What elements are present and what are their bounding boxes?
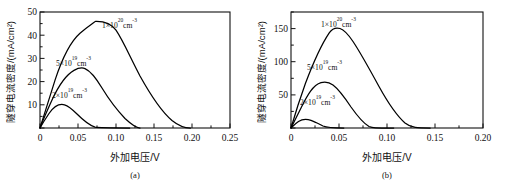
curve-a-1e20 [40,21,191,128]
y-tick-label-a-30: 30 [28,54,38,64]
panel-a-svg: 隧穿电流密度/(mA/cm²) 10 20 30 40 [0,0,253,187]
x-tick-label-a-0: 0 [38,133,43,143]
y-axis-label-b: 隧穿电流密度/(mA/cm²) [256,21,267,123]
panel-caption-a: (a) [130,170,140,180]
y-tick-label-a-50: 50 [28,7,38,17]
plot-frame-a [40,12,230,128]
x-tick-label-a-020: 0.20 [184,133,201,143]
y-axis-label-a: 隧穿电流密度/(mA/cm²) [5,21,16,123]
curve-label-b-1e20: 1×1020cm-3 [321,16,356,29]
x-tick-label-b-010: 0.10 [379,133,396,143]
y-ticks-b [291,12,296,128]
y-tick-label-b-100: 100 [274,57,289,67]
y-tick-label-a-10: 10 [28,100,38,110]
x-tick-label-a-005: 0.05 [70,133,87,143]
y-ticks-a [40,12,45,128]
panel-b: 隧穿电流密度/(mA/cm²) 50 100 150 [253,0,506,187]
figure-container: 隧穿电流密度/(mA/cm²) 10 20 30 40 [0,0,506,187]
x-axis-title-a: 外加电压/V [110,151,160,163]
curve-label-b-2e19: 2×1019cm-3 [300,94,335,107]
y-tick-label-b-150: 150 [274,24,289,34]
curve-b-2e19 [291,119,344,128]
x-axis-title-b: 外加电压/V [362,151,412,163]
y-tick-label-a-20: 20 [28,77,38,87]
panel-caption-b: (b) [382,170,392,180]
curve-label-a-5e19: 5×1019cm-3 [56,55,91,68]
y-tick-label-b-50: 50 [279,90,289,100]
x-tick-label-b-0: 0 [289,133,294,143]
x-tick-label-a-015: 0.15 [146,133,163,143]
panel-a: 隧穿电流密度/(mA/cm²) 10 20 30 40 [0,0,253,187]
panel-b-svg: 隧穿电流密度/(mA/cm²) 50 100 150 [253,0,506,187]
y-tick-label-a-40: 40 [28,31,38,41]
x-tick-label-b-015: 0.15 [427,133,444,143]
curve-b-1e20 [291,28,430,128]
x-tick-label-b-005: 0.05 [331,133,348,143]
x-tick-label-a-025: 0.25 [222,133,239,143]
x-tick-label-a-010: 0.10 [108,133,125,143]
curve-label-b-5e19: 5×1019cm-3 [307,59,342,72]
x-tick-label-b-020: 0.20 [475,133,492,143]
curve-label-a-1e20: 1×1020cm-3 [102,17,137,30]
